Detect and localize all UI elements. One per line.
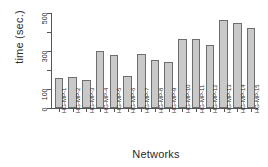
y-tick-label: 0 xyxy=(42,108,49,112)
x-tick-mark xyxy=(169,109,170,112)
x-tick-label: HG-MP-14 xyxy=(240,84,246,113)
x-tick-label: HG-MP-9 xyxy=(171,88,177,113)
y-tick-label: 100 xyxy=(42,89,49,101)
y-tick-mark xyxy=(47,32,51,33)
x-tick-mark xyxy=(86,109,87,112)
y-tick-mark xyxy=(47,70,51,71)
x-tick-mark xyxy=(182,109,183,112)
x-tick-mark xyxy=(224,109,225,112)
x-tick-mark xyxy=(155,109,156,112)
x-tick-mark xyxy=(141,109,142,112)
x-tick-label: HG-MP-7 xyxy=(144,88,150,113)
x-tick-label: HG-MP-8 xyxy=(158,88,164,113)
x-tick-mark xyxy=(128,109,129,112)
y-axis-title: time (sec.) xyxy=(13,0,25,82)
y-tick-label: 500 xyxy=(42,13,49,25)
x-tick-label: HG-MP-12 xyxy=(212,84,218,113)
x-tick-label: HG-MP-3 xyxy=(89,88,95,113)
x-tick-mark xyxy=(114,109,115,112)
x-tick-label: HG-MP-15 xyxy=(254,84,260,113)
x-tick-label: HG-MP-2 xyxy=(75,88,81,113)
x-tick-mark xyxy=(73,109,74,112)
x-axis-title: Networks xyxy=(50,148,262,160)
x-tick-mark xyxy=(59,109,60,112)
x-tick-label: HG-MP-4 xyxy=(103,88,109,113)
x-tick-label: HG-MP-6 xyxy=(130,88,136,113)
y-tick-label: 300 xyxy=(42,51,49,63)
x-tick-mark xyxy=(237,109,238,112)
x-tick-mark xyxy=(196,109,197,112)
x-tick-label: HG-MP-10 xyxy=(185,84,191,113)
x-tick-label: HG-MP-11 xyxy=(199,85,205,113)
x-tick-label: HG-MP-1 xyxy=(61,88,67,113)
x-tick-label: HG-MP-5 xyxy=(116,88,122,113)
barplot-chart: time (sec.) 0100300500 HG-MP-1HG-MP-2HG-… xyxy=(0,0,268,167)
x-tick-mark xyxy=(100,109,101,112)
x-tick-mark xyxy=(251,109,252,112)
x-tick-label: HG-MP-13 xyxy=(226,84,232,113)
x-tick-mark xyxy=(210,109,211,112)
